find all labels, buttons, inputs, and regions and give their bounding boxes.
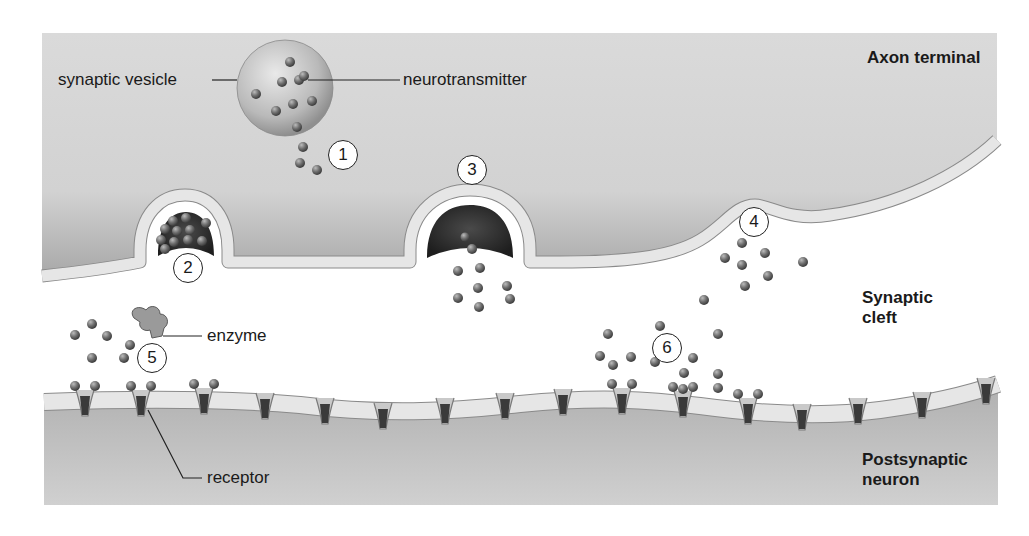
neurotransmitter-molecule	[595, 351, 605, 361]
neurotransmitter-molecule	[699, 295, 709, 305]
neurotransmitter-molecule	[740, 281, 750, 291]
neurotransmitter-molecule	[467, 244, 477, 254]
step-marker-5: 5	[137, 343, 167, 373]
step-marker-3: 3	[457, 155, 487, 185]
neurotransmitter-molecule	[70, 381, 80, 391]
synaptic-vesicle	[237, 40, 333, 136]
neurotransmitter-molecule	[70, 330, 80, 340]
neurotransmitter-molecule	[608, 360, 618, 370]
neurotransmitter-molecule	[146, 381, 156, 391]
neurotransmitter-molecule	[453, 293, 463, 303]
neurotransmitter-molecule	[655, 321, 665, 331]
neurotransmitter-molecule	[285, 57, 295, 67]
step-marker-2: 2	[173, 253, 203, 283]
neurotransmitter-molecule	[102, 331, 112, 341]
neurotransmitter-molecule	[473, 283, 483, 293]
neurotransmitter-molecule	[90, 381, 100, 391]
neurotransmitter-molecule	[753, 389, 763, 399]
neurotransmitter-label: neurotransmitter	[403, 70, 527, 90]
neurotransmitter-molecule	[505, 294, 515, 304]
neurotransmitter-molecule	[126, 381, 136, 391]
neurotransmitter-molecule	[189, 379, 199, 389]
receptor-label: receptor	[207, 468, 269, 488]
neurotransmitter-molecule	[713, 383, 723, 393]
step-marker-1: 1	[328, 140, 358, 170]
synaptic-cleft-label-line2: cleft	[862, 308, 897, 328]
enzyme-shape	[132, 307, 167, 338]
neurotransmitter-molecule	[798, 257, 808, 267]
axon-terminal-label: Axon terminal	[867, 48, 980, 68]
neurotransmitter-molecule	[760, 248, 770, 258]
neurotransmitter-molecule	[307, 96, 317, 106]
postsynaptic-label-line2: neuron	[862, 470, 920, 490]
neurotransmitter-molecule	[271, 106, 281, 116]
neurotransmitter-molecule	[688, 382, 698, 392]
synaptic-vesicle-label: synaptic vesicle	[58, 70, 177, 90]
neurotransmitter-molecule	[453, 266, 463, 276]
neurotransmitter-molecule	[119, 353, 129, 363]
neurotransmitter-molecule	[288, 99, 298, 109]
postsynaptic-label-line1: Postsynaptic	[862, 450, 968, 470]
neurotransmitter-molecule	[298, 142, 308, 152]
enzyme-label: enzyme	[207, 326, 267, 346]
neurotransmitter-molecule	[720, 253, 730, 263]
neurotransmitter-molecule	[474, 302, 484, 312]
neurotransmitter-molecule	[713, 329, 723, 339]
neurotransmitter-molecule	[312, 165, 322, 175]
neurotransmitter-molecule	[209, 379, 219, 389]
neurotransmitter-molecule	[87, 319, 97, 329]
neurotransmitter-molecule	[475, 263, 485, 273]
neurotransmitter-molecule	[603, 329, 613, 339]
neurotransmitter-molecule	[627, 379, 637, 389]
neurotransmitter-molecule	[678, 384, 688, 394]
neurotransmitter-molecule	[626, 352, 636, 362]
neurotransmitter-molecule	[737, 238, 747, 248]
neurotransmitter-molecule	[733, 389, 743, 399]
neurotransmitter-molecule	[295, 158, 305, 168]
neurotransmitter-molecule	[87, 353, 97, 363]
neurotransmitter-molecule	[299, 71, 309, 81]
neurotransmitter-molecule	[713, 369, 723, 379]
neurotransmitter-molecule	[668, 382, 678, 392]
synaptic-cleft-label-line1: Synaptic	[862, 288, 933, 308]
step-marker-6: 6	[652, 333, 682, 363]
neurotransmitter-molecule	[679, 368, 689, 378]
neurotransmitter-molecule	[125, 340, 135, 350]
neurotransmitter-molecule	[251, 89, 261, 99]
neurotransmitter-molecule	[292, 122, 302, 132]
neurotransmitter-molecule	[277, 77, 287, 87]
neurotransmitter-molecule	[502, 281, 512, 291]
step-marker-4: 4	[739, 207, 769, 237]
neurotransmitter-molecule	[607, 379, 617, 389]
neurotransmitter-molecule	[737, 260, 747, 270]
neurotransmitter-molecule	[688, 353, 698, 363]
neurotransmitter-molecule	[763, 271, 773, 281]
